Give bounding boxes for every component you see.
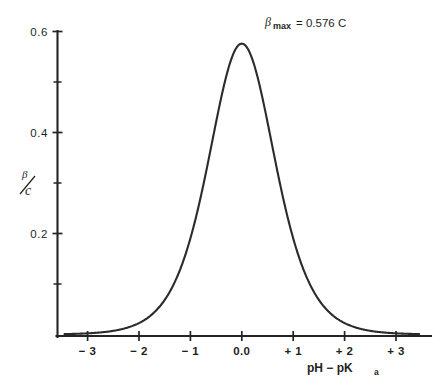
y-axis-title-denominator: c <box>25 183 32 198</box>
y-axis-title-numerator: β <box>21 168 28 180</box>
x-tick-label: + 3 <box>387 345 405 357</box>
x-tick-label: + 1 <box>284 345 302 357</box>
annotation-beta-symbol: β <box>264 15 271 29</box>
y-tick-label: 0.2 <box>30 228 48 240</box>
y-tick-label: 0.4 <box>30 127 48 139</box>
x-tick-label: 0.0 <box>233 345 250 357</box>
x-tick-label: − 1 <box>182 345 200 357</box>
buffer-capacity-chart: 0.20.40.6 − 3− 2− 10.0+ 1+ 2+ 3 β c pH −… <box>0 0 440 391</box>
y-tick-label: 0.6 <box>30 26 48 38</box>
annotation-value-text: = 0.576 C <box>296 17 346 29</box>
x-tick-label: − 3 <box>79 345 97 357</box>
x-axis-title-label: pH − pK <box>307 361 353 375</box>
x-tick-label: + 2 <box>336 345 354 357</box>
x-axis-title-subscript: a <box>374 367 379 377</box>
x-tick-label: − 2 <box>130 345 148 357</box>
chart-figure: 0.20.40.6 − 3− 2− 10.0+ 1+ 2+ 3 β c pH −… <box>0 0 440 391</box>
annotation-subscript-max: max <box>273 21 291 31</box>
